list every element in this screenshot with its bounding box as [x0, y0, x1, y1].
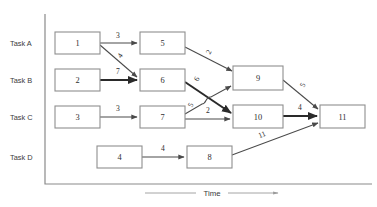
node-label-3: 3: [75, 113, 79, 122]
diagram-canvas: Task ATask BTask CTask D 1526937101148 3…: [0, 0, 377, 207]
edge-weight-n6-to-n10: 6: [192, 75, 202, 83]
node-8[interactable]: 8: [187, 146, 232, 168]
node-label-2: 2: [75, 76, 79, 85]
edge-weight-n3-to-n7: 3: [116, 104, 120, 113]
precedence-network-diagram: Task ATask BTask CTask D 1526937101148 3…: [0, 0, 377, 207]
row-label-task-d: Task D: [10, 153, 33, 162]
row-label-task-a: Task A: [10, 39, 32, 48]
edge-weight-n4-to-n8: 4: [161, 144, 165, 153]
node-9[interactable]: 9: [233, 66, 283, 90]
node-1[interactable]: 1: [55, 32, 100, 54]
edge-weight-n10-to-n11: 4: [298, 103, 302, 112]
edges-layer: [100, 43, 318, 157]
node-2[interactable]: 2: [55, 69, 100, 91]
edge-weight-n7-to-n9: 5: [186, 101, 196, 109]
edge-weight-n1-to-n6: 4: [115, 51, 125, 59]
task-row-labels: Task ATask BTask CTask D: [10, 39, 33, 162]
node-label-5: 5: [160, 39, 164, 48]
edge-weight-n2-to-n6: 7: [116, 67, 120, 76]
node-label-10: 10: [254, 113, 262, 122]
row-label-task-c: Task C: [10, 113, 33, 122]
node-label-1: 1: [75, 39, 79, 48]
node-4[interactable]: 4: [97, 146, 142, 168]
node-11[interactable]: 11: [320, 105, 365, 128]
node-6[interactable]: 6: [140, 69, 185, 91]
time-axis: Time: [145, 189, 278, 198]
edge-weight-n8-to-n11: 11: [257, 129, 267, 140]
node-label-8: 8: [207, 153, 211, 162]
node-label-9: 9: [256, 74, 260, 83]
node-3[interactable]: 3: [55, 106, 100, 128]
edge-weight-n7-to-n10: 2: [206, 106, 210, 115]
edge-weight-n5-to-n9: 2: [204, 48, 214, 56]
node-label-11: 11: [338, 113, 346, 122]
node-label-6: 6: [160, 76, 164, 85]
node-10[interactable]: 10: [233, 105, 283, 128]
row-label-task-b: Task B: [10, 76, 32, 85]
edge-weight-n9-to-n11: 5: [298, 81, 308, 89]
node-7[interactable]: 7: [140, 106, 185, 128]
time-axis-label: Time: [203, 189, 220, 198]
node-5[interactable]: 5: [140, 32, 185, 54]
node-label-7: 7: [160, 113, 164, 122]
edge-weight-n1-to-n5: 3: [116, 31, 120, 40]
